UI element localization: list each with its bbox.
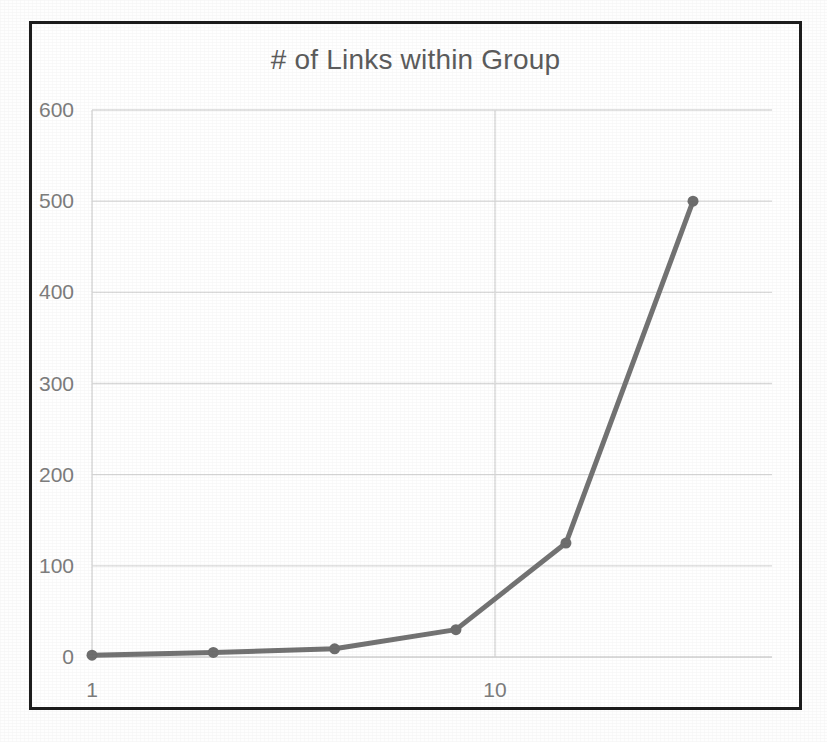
y-axis-tick-label: 300 <box>14 373 74 394</box>
chart-title: # of Links within Group <box>32 44 799 76</box>
y-axis-tick-label: 500 <box>14 190 74 211</box>
y-axis-tick-label: 200 <box>14 464 74 485</box>
chart-frame: # of Links within Group <box>29 21 802 710</box>
y-axis-tick-label: 600 <box>14 99 74 120</box>
y-axis-tick-label: 400 <box>14 281 74 302</box>
x-axis-tick-label: 1 <box>62 679 122 700</box>
x-axis-tick-label: 10 <box>465 679 525 700</box>
y-axis-tick-label: 100 <box>14 555 74 576</box>
scanned-page: # of Links within Group 0100200300400500… <box>0 0 827 742</box>
y-axis-tick-label: 0 <box>14 646 74 667</box>
